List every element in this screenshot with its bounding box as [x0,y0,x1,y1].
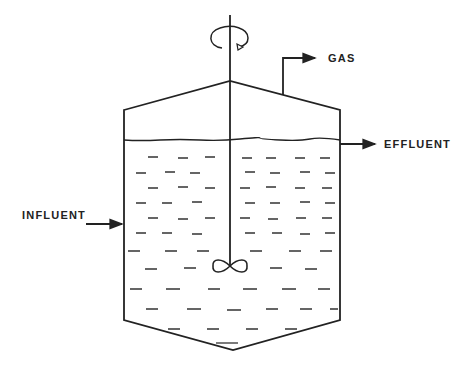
gas-outlet [283,58,315,95]
effluent-label: EFFLUENT [384,138,451,150]
reactor-diagram: GAS EFFLUENT INFLUENT [0,0,475,377]
gas-label: GAS [328,52,355,64]
liquid-fill-pattern [128,157,338,343]
liquid-level [124,138,340,141]
influent-label: INFLUENT [22,209,86,221]
